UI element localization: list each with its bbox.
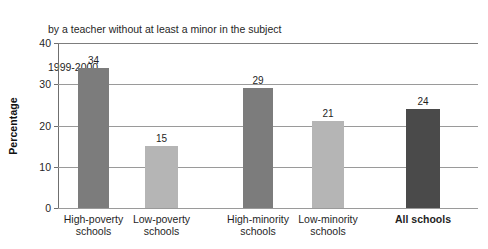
y-tick-label-10: 10 xyxy=(39,161,51,173)
plot-area: 4030201003415292124 xyxy=(58,43,478,208)
y-tick-label-40: 40 xyxy=(39,37,51,49)
gridline-30: 30 xyxy=(58,84,478,85)
y-tick-mark-10 xyxy=(54,167,58,168)
gridline-0: 0 xyxy=(58,208,478,209)
bar-3[interactable]: 21 xyxy=(312,121,344,208)
bar-value-label-1: 15 xyxy=(156,133,167,144)
y-tick-mark-20 xyxy=(54,126,58,127)
y-tick-label-30: 30 xyxy=(39,78,51,90)
bar-value-label-3: 21 xyxy=(322,108,333,119)
bar-value-label-2: 29 xyxy=(252,75,263,86)
chart-title-line-1: by a teacher without at least a minor in… xyxy=(48,23,468,36)
category-label-3: Low-minority schools xyxy=(278,214,378,237)
y-tick-mark-0 xyxy=(54,208,58,209)
bar-4[interactable]: 24 xyxy=(406,109,440,208)
y-axis-title: Percentage xyxy=(6,43,20,208)
y-tick-label-20: 20 xyxy=(39,120,51,132)
y-tick-mark-30 xyxy=(54,84,58,85)
bar-1[interactable]: 15 xyxy=(145,146,178,208)
bar-0[interactable]: 34 xyxy=(78,68,109,208)
category-label-1: Low-poverty schools xyxy=(112,214,212,237)
bar-value-label-0: 34 xyxy=(88,55,99,66)
bar-2[interactable]: 29 xyxy=(243,88,273,208)
y-tick-label-0: 0 xyxy=(45,202,51,214)
gridline-40: 40 xyxy=(58,43,478,44)
y-tick-mark-40 xyxy=(54,43,58,44)
bar-value-label-4: 24 xyxy=(417,96,428,107)
category-label-4: All schools xyxy=(373,214,473,226)
y-axis-title-text: Percentage xyxy=(7,97,19,155)
